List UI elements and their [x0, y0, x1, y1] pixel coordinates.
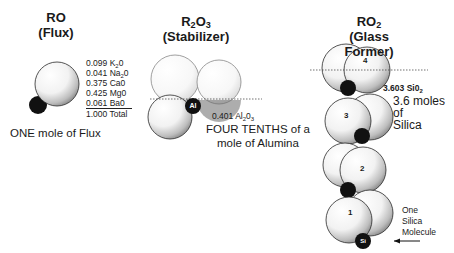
composition-total-row: 1.000 Total	[86, 109, 132, 119]
molecule-number-1: 1	[348, 208, 352, 217]
composition-row: 0.061 Ba0	[86, 98, 132, 109]
alumina-caption-line1: FOUR TENTHS of a	[206, 123, 310, 136]
molecule-number-2: 2	[360, 164, 364, 173]
composition-row: 0.041 Na20	[86, 68, 132, 78]
oxygen-sphere-icon	[35, 62, 79, 106]
ro2-formula: RO2	[324, 14, 414, 29]
silicon-atom-label: Si	[357, 236, 369, 246]
silica-caption: 3.6 moles of Silica	[393, 95, 445, 131]
alumina-caption-line2: mole of Alumina	[217, 137, 299, 150]
silicon-atom-icon	[354, 128, 370, 144]
r2o3-role: (Stabilizer)	[156, 29, 236, 44]
silicon-atom-icon	[340, 182, 356, 198]
oxygen-sphere-icon	[148, 95, 192, 139]
oxygen-sphere-icon	[197, 60, 241, 104]
molecule-number-4: 4	[363, 56, 367, 65]
silica-amount: 3.603 Si02	[383, 83, 423, 93]
ro-role: (Flux)	[28, 25, 84, 40]
flux-caption: ONE mole of Flux	[10, 127, 101, 140]
alumina-amount: 0.401 Al203	[212, 111, 254, 121]
ro-heading: RO (Flux)	[28, 10, 84, 40]
silicon-atom-icon	[340, 80, 356, 96]
molecule-number-3: 3	[344, 111, 348, 120]
ro-formula: RO	[28, 10, 84, 25]
ro2-role: (Glass Former)	[324, 29, 414, 59]
flux-composition-table: 0.099 K20 0.041 Na20 0.375 Ca0 0.425 Mg0…	[86, 58, 132, 119]
r2o3-formula: R2O3	[156, 14, 236, 29]
flux-molecule	[29, 62, 79, 114]
composition-row: 0.099 K20	[86, 58, 132, 68]
aluminum-atom-label: Al	[187, 101, 199, 111]
r2o3-heading: R2O3 (Stabilizer)	[156, 14, 236, 44]
composition-row: 0.425 Mg0	[86, 88, 132, 98]
one-silica-molecule-label: One Silica Molecule	[402, 205, 436, 238]
ro2-heading: RO2 (Glass Former)	[324, 14, 414, 59]
composition-row: 0.375 Ca0	[86, 78, 132, 88]
